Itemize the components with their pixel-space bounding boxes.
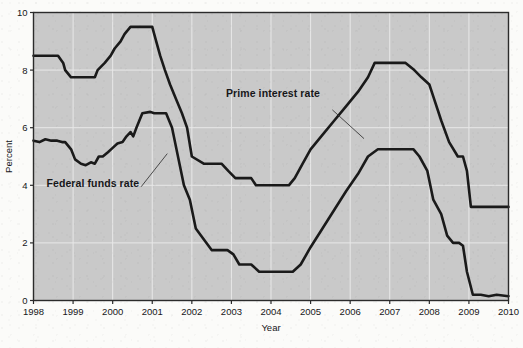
x-axis-tick-label: 1998 — [23, 306, 44, 317]
x-axis-tick-label: 2007 — [379, 306, 400, 317]
y-axis-tick-label: 2 — [22, 237, 27, 248]
y-axis-tick-label: 4 — [22, 180, 27, 191]
y-axis-tick-label: 6 — [22, 122, 27, 133]
series-label-federal-funds-rate: Federal funds rate — [46, 177, 139, 189]
y-axis-tick-label: 10 — [17, 7, 28, 18]
x-axis-tick-label: 2005 — [300, 306, 321, 317]
interest-rates-line-chart: 0246810199819992000200120022003200420052… — [0, 0, 523, 348]
x-axis-tick-label: 2009 — [458, 306, 479, 317]
chart-canvas: 0246810199819992000200120022003200420052… — [0, 0, 523, 348]
x-axis-title: Year — [261, 322, 280, 333]
y-axis-tick-label: 0 — [22, 295, 27, 306]
x-axis-tick-label: 2001 — [142, 306, 163, 317]
x-axis-tick-label: 2006 — [340, 306, 361, 317]
y-axis-title: Percent — [3, 140, 14, 173]
x-axis-tick-label: 1999 — [63, 306, 84, 317]
y-axis-tick-label: 8 — [22, 65, 27, 76]
x-axis-tick-label: 2004 — [260, 306, 281, 317]
x-axis-tick-label: 2002 — [181, 306, 202, 317]
x-axis-tick-label: 2003 — [221, 306, 242, 317]
x-axis-tick-label: 2000 — [102, 306, 123, 317]
x-axis-tick-label: 2010 — [498, 306, 519, 317]
series-label-prime-interest-rate: Prime interest rate — [226, 87, 320, 99]
x-axis-tick-label: 2008 — [419, 306, 440, 317]
